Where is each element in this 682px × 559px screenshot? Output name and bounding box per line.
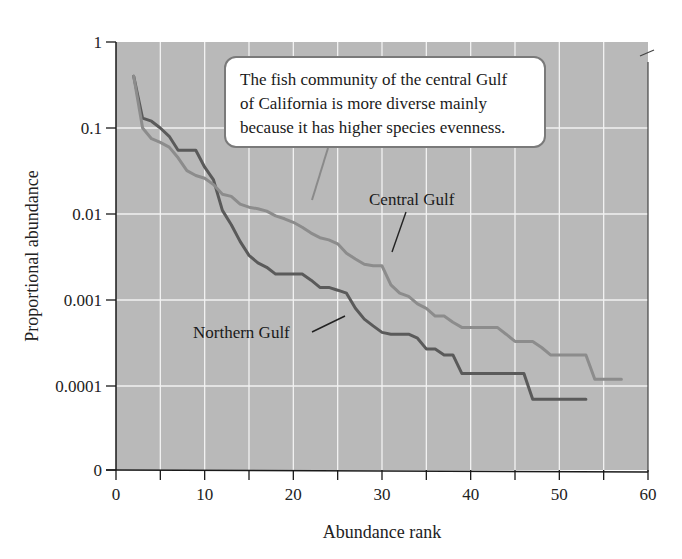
x-axis-title: Abundance rank: [323, 522, 441, 542]
y-tick-label: 0.01: [72, 205, 102, 224]
x-tick-label: 0: [112, 485, 121, 504]
y-tick-label: 0.001: [64, 291, 102, 310]
callout-line-3: because it has higher species evenness.: [240, 116, 536, 140]
central-gulf-label: Central Gulf: [369, 190, 455, 209]
y-tick-label: 0.1: [81, 119, 102, 138]
callout-line-1: The fish community of the central Gulf: [240, 68, 536, 92]
x-axis-line: [106, 470, 648, 472]
x-tick-label: 30: [374, 485, 391, 504]
annotation-callout: The fish community of the central Gulf o…: [224, 56, 546, 148]
x-tick-label: 20: [285, 485, 302, 504]
y-axis-title: Proportional abundance: [22, 170, 42, 341]
y-tick-label: 0: [94, 461, 103, 480]
x-tick-label: 60: [640, 485, 657, 504]
x-tick-label: 50: [551, 485, 568, 504]
y-tick-label: 0.0001: [55, 377, 102, 396]
northern-gulf-label: Northern Gulf: [193, 323, 290, 342]
x-tick-label: 40: [462, 485, 479, 504]
callout-line-2: of California is more diverse mainly: [240, 92, 536, 116]
x-tick-label: 10: [196, 485, 213, 504]
y-tick-label: 1: [94, 33, 103, 52]
